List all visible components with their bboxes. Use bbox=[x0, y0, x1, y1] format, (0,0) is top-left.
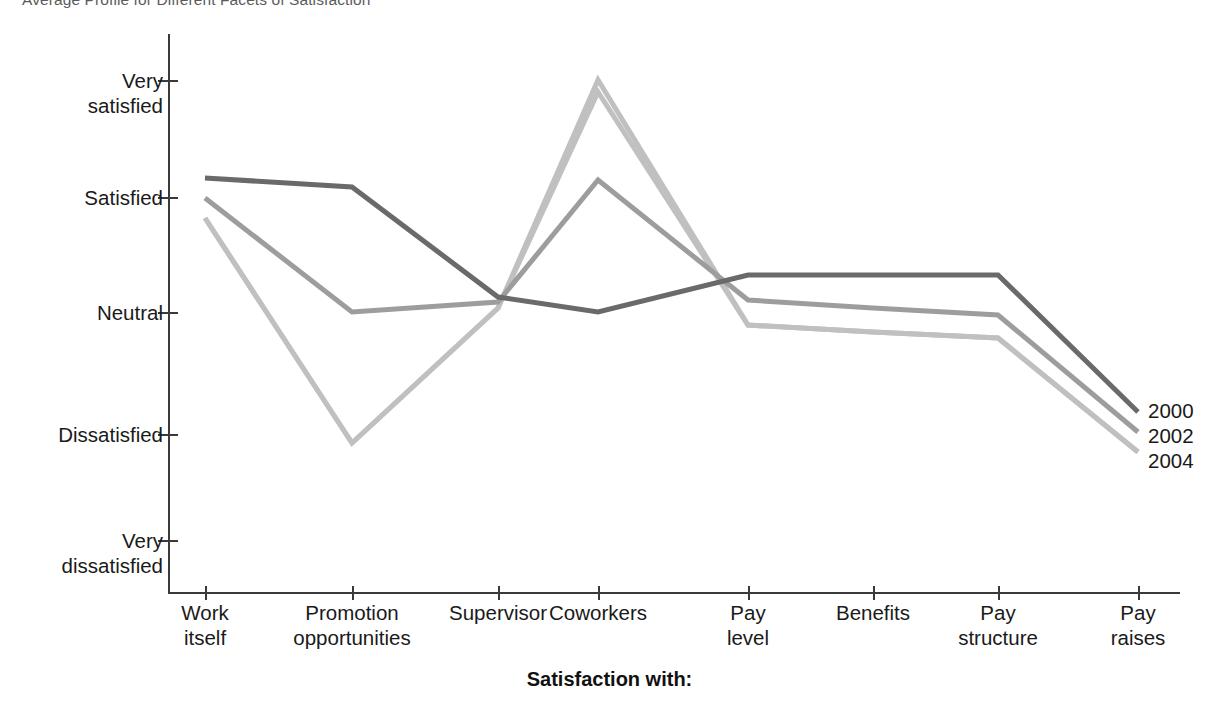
x-tick-pay-raises bbox=[1138, 586, 1140, 600]
x-axis-line bbox=[168, 592, 1180, 594]
legend-item-2002: 2002 bbox=[1148, 423, 1194, 448]
y-axis-label-very-satisfied: Very satisfied bbox=[88, 68, 163, 118]
x-tick-work-itself bbox=[205, 586, 207, 600]
y-axis-line bbox=[168, 34, 170, 594]
x-tick-promotion-opportunities bbox=[352, 586, 354, 600]
legend-item-2004: 2004 bbox=[1148, 448, 1194, 473]
chart-container: Average Profile for Different Facets of … bbox=[0, 0, 1219, 708]
x-axis-title: Satisfaction with: bbox=[0, 668, 1219, 691]
x-tick-supervisor bbox=[498, 586, 500, 600]
legend: 2000 2002 2004 bbox=[1148, 398, 1194, 473]
x-axis-label-pay-level: Pay level bbox=[727, 600, 769, 650]
series-line-2002 bbox=[205, 180, 1138, 432]
x-axis-label-pay-structure: Pay structure bbox=[958, 600, 1038, 650]
x-tick-pay-structure bbox=[998, 586, 1000, 600]
x-axis-label-benefits: Benefits bbox=[836, 600, 910, 625]
x-axis-label-pay-raises: Pay raises bbox=[1111, 600, 1166, 650]
x-tick-benefits bbox=[873, 586, 875, 600]
x-tick-coworkers bbox=[598, 586, 600, 600]
y-axis-label-satisfied: Satisfied bbox=[84, 185, 163, 210]
series-line-2000 bbox=[205, 178, 1138, 412]
chart-title: Average Profile for Different Facets of … bbox=[22, 0, 370, 9]
y-axis-label-neutral: Neutral bbox=[97, 300, 163, 325]
x-axis-label-work-itself: Work itself bbox=[181, 600, 228, 650]
x-axis-label-promotion-opportunities: Promotion opportunities bbox=[293, 600, 410, 650]
legend-item-2000: 2000 bbox=[1148, 398, 1194, 423]
x-tick-pay-level bbox=[748, 586, 750, 600]
y-axis-label-dissatisfied: Dissatisfied bbox=[58, 422, 163, 447]
y-axis-label-very-dissatisfied: Very dissatisfied bbox=[62, 528, 163, 578]
x-axis-label-coworkers: Coworkers bbox=[549, 600, 647, 625]
series-line-2004-upper-shadow bbox=[205, 92, 1138, 452]
x-axis-label-supervisor: Supervisor bbox=[449, 600, 547, 625]
series-line-2004 bbox=[205, 80, 1138, 452]
